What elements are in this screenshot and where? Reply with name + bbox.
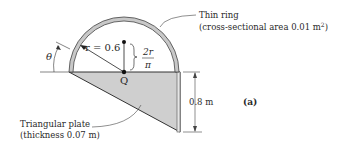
- height-dim-arrow-top: [193, 72, 197, 78]
- height-label: 0.8 m: [189, 97, 213, 107]
- ring-leader-line: [160, 15, 196, 27]
- plate-edge: [177, 72, 180, 132]
- offset-brace: [130, 44, 137, 70]
- offset-numerator: 2r: [142, 47, 154, 57]
- centroid-dot: [122, 40, 126, 44]
- plate-label-line2: (thickness 0.07 m): [20, 130, 100, 140]
- ring-label-line2: (cross-sectional area 0.01 m2): [199, 21, 328, 32]
- radius-label: r = 0.6: [85, 42, 120, 53]
- panel-label: (a): [243, 97, 257, 107]
- plate-label-line1: Triangular plate: [20, 119, 90, 129]
- point-q-dot: [122, 70, 126, 74]
- diagram-canvas: r = 0.6 2r π Q θ Thin ring (cross-sectio…: [0, 0, 342, 145]
- plate-leader-line: [92, 105, 141, 127]
- theta-label: θ: [46, 51, 52, 62]
- ring-label-line1: Thin ring: [199, 10, 239, 20]
- offset-denominator: π: [144, 60, 152, 70]
- height-dim-arrow-bottom: [193, 126, 197, 132]
- theta-arc: [54, 46, 59, 72]
- theta-arrowhead: [56, 45, 61, 50]
- point-q-label: Q: [120, 75, 128, 86]
